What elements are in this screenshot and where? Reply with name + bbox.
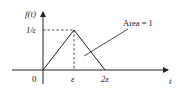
- area-annotation: Area = 1: [123, 18, 153, 28]
- peak-value-label: 1/ε: [26, 25, 37, 35]
- origin-tick-label: 0: [32, 74, 37, 84]
- x-axis-label: t: [169, 76, 172, 86]
- triangle-pulse-diagram: f(t) 1/ε 0 ε 2ε t Area = 1: [0, 0, 180, 92]
- area-leader-line: [84, 29, 128, 56]
- y-axis-label: f(t): [25, 9, 36, 19]
- two-eps-tick-label: 2ε: [101, 74, 110, 84]
- eps-tick-label: ε: [71, 74, 75, 84]
